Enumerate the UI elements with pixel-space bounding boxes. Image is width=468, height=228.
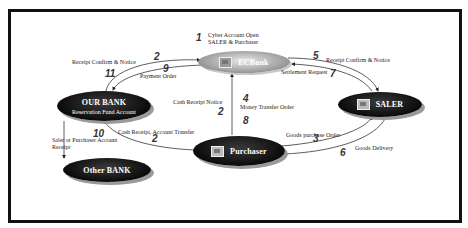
step-number: 4: [243, 93, 249, 104]
ecbank-node[interactable]: ECBank: [198, 51, 290, 73]
other-bank-node[interactable]: Other BANK: [63, 158, 151, 182]
purchaser-label: Purchaser: [230, 147, 267, 156]
label-goods-delivery: Goods Delivery: [355, 145, 393, 152]
step-number: 5: [313, 50, 319, 61]
ecbank-label: ECBank: [238, 58, 269, 67]
step-number: 9: [163, 63, 169, 74]
label-saler-purchaser-line2: Receipt: [52, 144, 70, 151]
label-receipt-confirm-left: Receipt Confirm & Notice: [72, 59, 136, 66]
computer-icon: [211, 146, 224, 157]
step-number: 8: [243, 115, 249, 126]
step-number: 10: [93, 128, 104, 139]
label-money-transfer-order: Money Transfer Order: [240, 104, 294, 111]
label-payment-order: Payment Order: [140, 73, 177, 80]
label-cash-receipt-notice: Cash Receipt Notice: [173, 99, 222, 106]
our-bank-sublabel: Reservation Fund Account: [72, 109, 136, 115]
our-bank-label: OUR BANK: [82, 98, 127, 107]
step-number: 1: [196, 32, 202, 43]
computer-icon: [357, 99, 370, 110]
saler-node[interactable]: SALER: [338, 92, 422, 117]
step-number: 2: [152, 133, 158, 144]
label-cyber-account-line1: Cyber Account Open: [208, 32, 259, 39]
label-saler-purchaser-line1: Saler or Purchaser Account: [52, 137, 117, 144]
step-number: 3: [313, 133, 319, 144]
step-number: 11: [105, 68, 115, 79]
other-bank-label: Other BANK: [83, 166, 130, 175]
label-settlement-request: Settlement Request: [281, 69, 328, 76]
step-number: 7: [330, 68, 336, 79]
step-number: 2: [218, 106, 224, 117]
label-cyber-account-line2: SALER & Purchaser: [208, 39, 258, 46]
step-number: 6: [340, 147, 346, 158]
purchaser-node[interactable]: Purchaser: [193, 136, 285, 166]
saler-label: SALER: [376, 100, 404, 109]
computer-icon: [219, 57, 232, 68]
step-number: 2: [154, 51, 160, 62]
label-receipt-confirm-right: Receipt Confirm & Notice: [326, 57, 390, 64]
our-bank-node[interactable]: OUR BANK Reservation Fund Account: [57, 91, 151, 121]
